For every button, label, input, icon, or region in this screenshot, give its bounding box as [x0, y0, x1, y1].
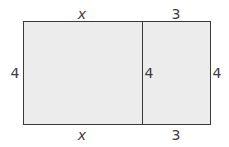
- top-right-width-label: 3: [172, 7, 181, 21]
- right-height-label: 4: [213, 66, 222, 80]
- bottom-right-width-label: 3: [172, 128, 181, 142]
- area-model-diagram: x 3 4 4 4 x 3: [0, 0, 229, 147]
- middle-height-label: 4: [145, 66, 154, 80]
- top-left-width-label: x: [78, 7, 86, 21]
- left-height-label: 4: [11, 66, 20, 80]
- bottom-left-width-label: x: [78, 128, 86, 142]
- left-rectangle: [23, 21, 143, 125]
